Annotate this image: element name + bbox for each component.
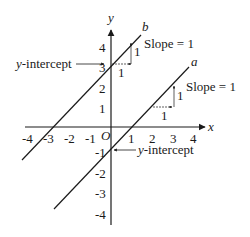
slope-label-b: Slope = 1 xyxy=(144,36,194,51)
run-label-b: 1 xyxy=(118,65,125,80)
intercept-label-b: y-intercept xyxy=(14,56,72,71)
rise-label-b: 1 xyxy=(134,44,141,59)
line-b-label: b xyxy=(142,19,149,34)
x-tick: 1 xyxy=(128,131,135,146)
y-tick: 2 xyxy=(99,81,106,96)
x-tick: -2 xyxy=(64,131,75,146)
slope-label-a: Slope = 1 xyxy=(186,79,236,94)
y-axis-label: y xyxy=(106,10,114,25)
y-tick: -4 xyxy=(95,207,106,222)
y-tick: -1 xyxy=(95,145,106,160)
y-tick: 4 xyxy=(99,40,106,55)
y-tick: -3 xyxy=(95,186,106,201)
origin-label: O xyxy=(101,128,111,143)
x-tick: -4 xyxy=(22,131,33,146)
line-a-label: a xyxy=(191,54,198,69)
line-b xyxy=(22,35,141,160)
y-tick: -2 xyxy=(95,166,106,181)
y-tick: 1 xyxy=(99,101,106,116)
graph-canvas: y x O -4 -3 -2 -1 1 2 3 4 4 3 2 1 -1 -2 … xyxy=(0,0,250,237)
x-tick: -3 xyxy=(43,131,54,146)
intercept-label-a: y-intercept xyxy=(136,142,194,157)
x-axis-label: x xyxy=(207,119,214,134)
rise-label-a: 1 xyxy=(177,88,184,103)
run-label-a: 1 xyxy=(161,108,168,123)
x-tick: -1 xyxy=(85,131,96,146)
